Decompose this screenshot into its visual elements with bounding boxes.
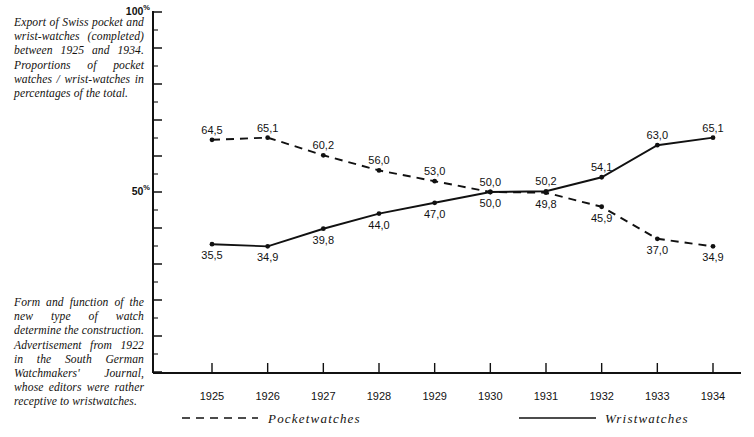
x-axis-ticks <box>212 363 713 373</box>
y-axis-label-100-unit: % <box>143 3 150 12</box>
data-point <box>210 137 215 142</box>
data-point <box>488 190 493 195</box>
series-line-pocketwatches <box>212 138 713 247</box>
y-axis-label-100: 100% <box>108 3 150 17</box>
value-label-wristwatches-1928: 44,0 <box>357 219 401 231</box>
x-axis-label-1932: 1932 <box>574 390 630 402</box>
data-point <box>432 200 437 205</box>
series-line-wristwatches <box>212 138 713 247</box>
data-point <box>377 211 382 216</box>
y-axis-label-50-unit: % <box>143 183 150 192</box>
data-point <box>210 242 215 247</box>
value-label-pocketwatches-1933: 37,0 <box>635 244 679 256</box>
legend-item-wristwatches: Wristwatches <box>605 411 689 427</box>
x-axis-label-1925: 1925 <box>184 390 240 402</box>
value-label-pocketwatches-1926: 65,1 <box>246 122 290 134</box>
y-axis-ticks <box>153 12 162 372</box>
data-point <box>599 204 604 209</box>
data-point <box>265 135 270 140</box>
x-axis-label-1933: 1933 <box>629 390 685 402</box>
axes <box>153 11 741 373</box>
x-axis-label-1931: 1931 <box>518 390 574 402</box>
value-label-pocketwatches-1931: 49,8 <box>524 198 568 210</box>
data-point <box>599 175 604 180</box>
chart: 100% 50% 1925192619271928192919301931193… <box>0 0 754 437</box>
x-axis-label-1927: 1927 <box>295 390 351 402</box>
value-label-pocketwatches-1932: 45,9 <box>580 212 624 224</box>
value-label-pocketwatches-1927: 60,2 <box>301 139 345 151</box>
y-axis-label-50-value: 50 <box>132 185 144 197</box>
value-label-wristwatches-1934: 65,1 <box>691 122 735 134</box>
data-point <box>655 236 660 241</box>
x-axis-label-1930: 1930 <box>462 390 518 402</box>
x-axis-label-1926: 1926 <box>240 390 296 402</box>
data-point <box>544 189 549 194</box>
series-pocketwatches <box>210 135 716 249</box>
y-axis-label-50: 50% <box>108 183 150 197</box>
legend-item-pocketwatches: Pocketwatches <box>268 411 361 427</box>
x-axis-label-1934: 1934 <box>685 390 741 402</box>
value-label-wristwatches-1933: 63,0 <box>635 129 679 141</box>
data-point <box>265 244 270 249</box>
value-label-pocketwatches-1934: 34,9 <box>691 251 735 263</box>
y-axis-label-100-value: 100 <box>126 5 144 17</box>
data-point <box>711 244 716 249</box>
value-label-pocketwatches-1929: 53,0 <box>413 165 457 177</box>
value-label-wristwatches-1925: 35,5 <box>190 249 234 261</box>
data-point <box>321 153 326 158</box>
value-label-pocketwatches-1928: 56,0 <box>357 154 401 166</box>
data-point <box>377 168 382 173</box>
value-label-wristwatches-1927: 39,8 <box>301 234 345 246</box>
x-axis-label-1929: 1929 <box>407 390 463 402</box>
value-label-pocketwatches-1930: 50,0 <box>468 176 512 188</box>
value-label-wristwatches-1932: 54,1 <box>580 161 624 173</box>
data-point <box>432 179 437 184</box>
data-point <box>321 226 326 231</box>
x-axis-label-1928: 1928 <box>351 390 407 402</box>
data-point <box>655 143 660 148</box>
value-label-wristwatches-1929: 47,0 <box>413 208 457 220</box>
value-label-pocketwatches-1925: 64,5 <box>190 124 234 136</box>
data-point <box>711 135 716 140</box>
series-wristwatches <box>210 135 716 249</box>
value-label-wristwatches-1930: 50,0 <box>468 197 512 209</box>
value-label-wristwatches-1926: 34,9 <box>246 251 290 263</box>
value-label-wristwatches-1931: 50,2 <box>524 175 568 187</box>
